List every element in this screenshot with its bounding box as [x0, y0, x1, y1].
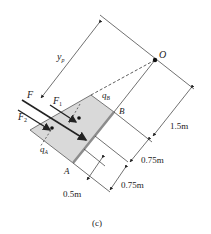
yp-dimension [41, 23, 99, 98]
label-b: B [119, 106, 125, 116]
label-dim-0.75m-1: 0.75m [141, 155, 164, 165]
label-a: A [63, 166, 70, 176]
label-qa: qA [40, 144, 49, 155]
dim-0.5m [87, 158, 102, 180]
ext-line-mid [95, 136, 128, 162]
reference-line-o [100, 15, 194, 89]
ext-line-a [73, 163, 110, 192]
caption: (c) [92, 218, 102, 228]
hydrostatic-diagram: O B A F F1 F2 qA qB yp 1.5m 0.75m 0.75m … [0, 0, 211, 234]
ext-line-f [84, 149, 105, 166]
label-f: F [26, 89, 34, 100]
centroid-f1-dot [77, 116, 81, 120]
label-dim-1.5m: 1.5m [170, 121, 188, 131]
label-f2: F2 [17, 111, 27, 123]
line-b-to-o [114, 60, 155, 112]
label-dim-0.5m: 0.5m [63, 189, 81, 199]
point-o [153, 58, 157, 62]
label-f1: F1 [52, 95, 62, 107]
centroid-f2-dot [50, 126, 54, 130]
ext-line-b [114, 112, 152, 142]
label-qb: qB [102, 90, 111, 101]
label-yp: yp [56, 51, 64, 63]
label-o: O [159, 49, 166, 60]
dashed-line-to-o [91, 60, 155, 95]
label-dim-0.75m-2: 0.75m [121, 180, 144, 190]
